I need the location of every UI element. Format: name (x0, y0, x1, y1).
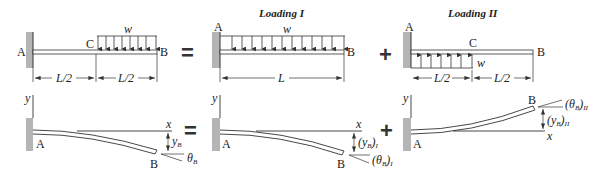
cantilever-beam (220, 50, 344, 54)
point-b-label: B (537, 45, 545, 59)
y-axis-label: y (24, 91, 31, 105)
point-c-label: C (86, 37, 94, 51)
point-b-label: B (160, 45, 168, 59)
plus-sign-top: + (379, 42, 392, 67)
point-c-label: C (469, 36, 477, 50)
slope-label: (θB)II (565, 97, 589, 112)
point-a-label: A (222, 137, 231, 151)
cantilever-beam (33, 50, 157, 54)
point-a-label: A (405, 20, 414, 34)
deflected-beam-loading-2: y x (yB)II (θB)II A B (402, 91, 589, 151)
fixed-support-wall (212, 32, 220, 68)
dim-right-label: L/2 (117, 71, 134, 85)
fixed-support-wall (403, 32, 411, 68)
equals-sign-top: = (181, 40, 194, 65)
fixed-support-wall (212, 118, 220, 151)
loading-2-title: Loading II (447, 7, 498, 19)
point-a-label: A (214, 20, 223, 34)
fixed-support-wall (403, 118, 411, 151)
distributed-load-upward (411, 55, 473, 68)
load-w-label: w (477, 56, 485, 70)
distributed-load-downward-full (220, 36, 345, 49)
beam-original-loading: A B C w L/2 L/2 (17, 22, 168, 85)
dimension-lines (33, 54, 157, 82)
dim-l-label: L (277, 71, 285, 85)
dim-right-label: L/2 (493, 71, 510, 85)
deflected-beam-loading-1: y x (yB)I (θB)I A B (211, 91, 393, 171)
plus-sign-bottom: + (380, 118, 393, 143)
dim-left-label: L/2 (433, 71, 450, 85)
superposition-diagram: A B C w L/2 L/2 = Loa (0, 0, 607, 181)
load-w-label: w (283, 22, 291, 36)
y-axis-label: y (211, 91, 218, 105)
equals-sign-bottom: = (184, 118, 197, 143)
slope-label: (θB)I (372, 153, 393, 168)
fixed-support-wall (26, 32, 33, 68)
deflected-beam-original: y x yB θB A B (24, 91, 198, 171)
point-a-label: A (17, 45, 26, 59)
deflection-label: (yB)I (358, 135, 379, 150)
x-axis-label: x (355, 117, 362, 131)
load-w-label: w (124, 22, 132, 36)
point-b-label: B (337, 157, 345, 171)
x-axis-label: x (165, 117, 172, 131)
point-a-label: A (413, 137, 422, 151)
x-axis-label: x (546, 129, 553, 143)
point-b-label: B (528, 93, 536, 107)
beam-loading-2: Loading II A B C w L/2 L/2 (403, 7, 545, 85)
distributed-load-downward (97, 36, 157, 49)
point-b-label: B (150, 157, 158, 171)
slope-label: θB (187, 151, 198, 166)
point-b-label: B (347, 45, 355, 59)
fixed-support-wall (26, 118, 33, 151)
point-a-label: A (36, 137, 45, 151)
beam-loading-1: Loading I A B w L (212, 7, 355, 85)
loading-1-title: Loading I (258, 7, 305, 19)
y-axis-label: y (402, 91, 409, 105)
cantilever-beam (411, 50, 533, 54)
deflection-label: (yB)II (547, 113, 570, 128)
deflection-label: yB (171, 134, 182, 149)
dim-left-label: L/2 (55, 71, 72, 85)
